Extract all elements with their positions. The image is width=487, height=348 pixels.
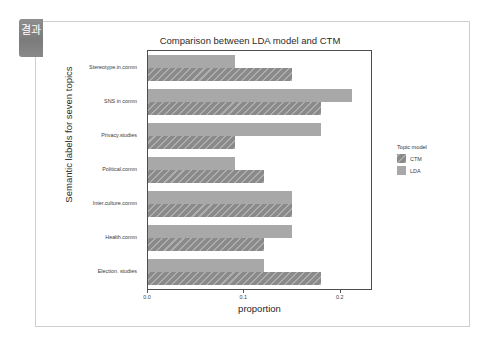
bar-group (148, 221, 371, 255)
bar-ctm (148, 136, 235, 148)
bar-ctm (148, 272, 321, 284)
legend-title: Topic model (397, 144, 467, 150)
bar-group (148, 85, 371, 119)
x-axis: proportion 0.00.10.2 (147, 290, 372, 324)
bar-lda (148, 191, 292, 203)
legend-swatch-icon (397, 166, 406, 175)
bar-lda (148, 259, 264, 271)
x-axis-tick-label: 0.1 (240, 294, 248, 300)
legend-entries: CTMLDA (397, 154, 467, 175)
bar-lda (148, 225, 292, 237)
bar-lda (148, 157, 235, 169)
legend-item-ctm: CTM (397, 154, 467, 163)
bar-group (148, 51, 371, 85)
y-axis-tick-label: Election. studies (98, 268, 137, 274)
x-axis-title: proportion (147, 303, 372, 314)
legend-item-lda: LDA (397, 166, 467, 175)
bar-group (148, 153, 371, 187)
y-axis-tick-label: Stereotype.in.comm (89, 64, 137, 70)
x-axis-tick-mark (243, 290, 244, 293)
y-axis-tick-label: Privacy.studies (101, 132, 137, 138)
chart-container: Comparison between LDA model and CTM Sem… (35, 21, 470, 327)
x-axis-tick-label: 0.2 (336, 294, 344, 300)
chart-title: Comparison between LDA model and CTM (105, 35, 395, 46)
bar-ctm (148, 68, 292, 80)
slide-canvas: 결과 Comparison between LDA model and CTM … (0, 0, 487, 348)
bar-group (148, 187, 371, 221)
bar-group (148, 119, 371, 153)
y-axis-tick-label: Inter.culture.comm (93, 200, 137, 206)
bar-ctm (148, 238, 264, 250)
bar-ctm (148, 102, 321, 114)
y-axis-tick-label: Political.comm (102, 166, 137, 172)
x-axis-tick-mark (147, 290, 148, 293)
bar-lda (148, 89, 352, 101)
plot-panel (147, 50, 372, 290)
legend-label: CTM (410, 156, 422, 162)
bar-group (148, 255, 371, 289)
y-axis-tick-label: Health.comm (105, 234, 137, 240)
bar-lda (148, 55, 235, 67)
chart-legend: Topic model CTMLDA (397, 144, 467, 178)
y-axis-tick-labels: Stereotype.in.commSNS in commPrivacy.stu… (65, 50, 143, 290)
bar-lda (148, 123, 321, 135)
y-axis-tick-label: SNS in comm (104, 98, 137, 104)
bar-ctm (148, 204, 292, 216)
legend-swatch-icon (397, 154, 406, 163)
x-axis-tick-label: 0.0 (143, 294, 151, 300)
legend-label: LDA (410, 168, 421, 174)
bar-ctm (148, 170, 264, 182)
x-axis-tick-mark (340, 290, 341, 293)
